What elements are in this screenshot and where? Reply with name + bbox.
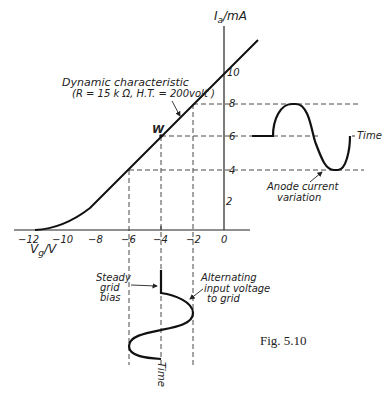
- anode-current-waveform: [252, 104, 350, 170]
- input-label: Alternating: [200, 272, 257, 283]
- x-tick: 0: [221, 234, 227, 245]
- valve-dynamic-characteristic-diagram: Ia/mA Vg/V −12 −10 −8 −6 −4 −2 0 2 4 6 8…: [0, 0, 389, 400]
- figure-caption: Fig. 5.10: [260, 333, 307, 348]
- x-tick: −10: [52, 234, 73, 245]
- anode-label-line2: variation: [277, 192, 321, 203]
- y-tick: 4: [229, 165, 235, 176]
- axes: [14, 26, 250, 230]
- input-label-arrow: [190, 289, 203, 299]
- y-tick: 2: [226, 196, 232, 207]
- grid-time-label: Time: [156, 362, 167, 387]
- x-tick: −8: [88, 234, 103, 245]
- y-tick-labels: 2 4 6 8 10: [226, 67, 240, 207]
- anode-label: Anode current: [266, 181, 340, 192]
- x-tick: −12: [18, 234, 39, 245]
- curve-label-arrow: [172, 101, 180, 116]
- anode-time-label: Time: [357, 130, 382, 141]
- y-tick: 8: [229, 98, 235, 109]
- y-tick: 6: [229, 131, 235, 142]
- curve-label-params: (R = 15 k Ω, H.T. = 200volt ): [72, 88, 215, 99]
- x-tick: −4: [153, 234, 168, 245]
- grid-bias-label-line3: bias: [100, 292, 120, 303]
- input-label-line3: to grid: [207, 293, 240, 304]
- x-tick: −6: [121, 234, 136, 245]
- grid-bias-arrow: [131, 285, 157, 286]
- y-axis-label: Ia/mA: [214, 9, 247, 25]
- operating-point-label: W: [152, 123, 165, 136]
